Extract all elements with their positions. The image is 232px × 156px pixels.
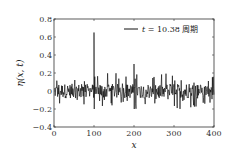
x-tick-label: 100: [86, 129, 101, 138]
data-series-line: [54, 33, 214, 110]
y-tick-label: 0.6: [39, 33, 52, 42]
plot-area: [54, 33, 214, 110]
y-tick-label: 0.4: [39, 51, 52, 60]
y-axis-label: η(x, t): [15, 59, 25, 86]
x-tick-label: 200: [126, 129, 141, 138]
y-tick-label: −0.4: [33, 123, 52, 132]
y-tick-label: −0.2: [33, 105, 52, 114]
y-tick-label: 0: [47, 87, 52, 96]
x-tick-label: 0: [51, 129, 56, 138]
legend-label: t = 10.38 周期: [142, 25, 198, 34]
legend: t = 10.38 周期: [124, 25, 198, 34]
y-tick-label: 0.2: [39, 69, 52, 78]
x-tick-label: 300: [166, 129, 181, 138]
x-axis-label: x: [131, 140, 136, 150]
line-chart: 0100200300400−0.4−0.200.20.40.60.8 t = 1…: [0, 0, 232, 156]
x-tick-label: 400: [206, 129, 221, 138]
y-tick-label: 0.8: [39, 15, 52, 24]
